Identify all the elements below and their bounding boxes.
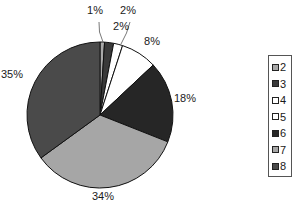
legend-swatch bbox=[272, 113, 279, 120]
legend-label: 2 bbox=[280, 61, 286, 73]
legend-swatch bbox=[272, 130, 279, 137]
legend-swatch bbox=[272, 97, 279, 104]
legend-item-3: 3 bbox=[272, 78, 286, 90]
legend-label: 5 bbox=[280, 111, 286, 123]
legend-label: 7 bbox=[280, 144, 286, 156]
legend-label: 8 bbox=[280, 160, 286, 172]
legend-swatch bbox=[272, 64, 279, 71]
legend-item-5: 5 bbox=[272, 111, 286, 123]
slice-label-2: 1% bbox=[87, 4, 103, 16]
slice-label-4: 2% bbox=[120, 4, 136, 16]
legend-label: 6 bbox=[280, 127, 286, 139]
legend-swatch bbox=[272, 146, 279, 153]
legend-label: 4 bbox=[280, 94, 286, 106]
legend-swatch bbox=[272, 80, 279, 87]
legend: 2345678 bbox=[268, 55, 292, 177]
slice-label-6: 18% bbox=[174, 92, 196, 104]
legend-item-2: 2 bbox=[272, 61, 286, 73]
legend-item-7: 7 bbox=[272, 144, 286, 156]
slice-label-3: 2% bbox=[113, 20, 129, 32]
pie-chart: 1%2%2%8%18%34%35% bbox=[0, 0, 298, 208]
pie-slices bbox=[27, 42, 173, 188]
legend-swatch bbox=[272, 163, 279, 170]
legend-item-4: 4 bbox=[272, 94, 286, 106]
leader-line bbox=[99, 22, 103, 42]
legend-item-8: 8 bbox=[272, 160, 286, 172]
slice-label-5: 8% bbox=[144, 35, 160, 47]
slice-label-7: 34% bbox=[92, 190, 114, 202]
slice-label-8: 35% bbox=[1, 68, 23, 80]
legend-label: 3 bbox=[280, 78, 286, 90]
legend-item-6: 6 bbox=[272, 127, 286, 139]
